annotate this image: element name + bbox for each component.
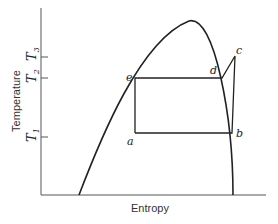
y-axis-title: Temperature (10, 70, 22, 132)
x-axis-title: Entropy (131, 202, 169, 214)
label-t2: T2 (24, 69, 41, 83)
svg-text:T3: T3 (24, 47, 41, 61)
point-label-e: e (126, 71, 133, 84)
point-label-d: d (210, 64, 217, 77)
point-label-b: b (236, 127, 243, 140)
ts-diagram: e d c b a T3 T2 T1 Temperature Entropy (0, 0, 278, 224)
svg-text:T1: T1 (24, 128, 41, 142)
point-label-c: c (236, 44, 242, 57)
point-label-a: a (127, 135, 134, 148)
svg-text:T2: T2 (24, 69, 41, 83)
label-t1: T1 (24, 128, 41, 142)
saturation-dome (79, 21, 233, 195)
svg-text:Temperature: Temperature (10, 70, 22, 132)
label-t3: T3 (24, 47, 41, 61)
cycle-path (135, 56, 235, 133)
